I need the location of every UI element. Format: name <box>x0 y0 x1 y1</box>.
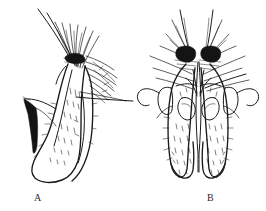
figure-b-apical-setae <box>150 10 249 91</box>
figure-label-b: B <box>207 193 214 203</box>
figure-a-group <box>23 9 133 182</box>
figure-b-inner-pockets <box>178 97 219 120</box>
illustration-plate: A B <box>0 0 266 211</box>
figure-label-a: A <box>34 193 41 203</box>
figure-a-lobe-outline <box>32 64 93 182</box>
figure-b-lateral-hooks <box>137 87 258 114</box>
figure-b-group <box>137 10 258 178</box>
figure-a-apical-setae <box>38 9 99 68</box>
plate-artwork <box>0 0 266 211</box>
